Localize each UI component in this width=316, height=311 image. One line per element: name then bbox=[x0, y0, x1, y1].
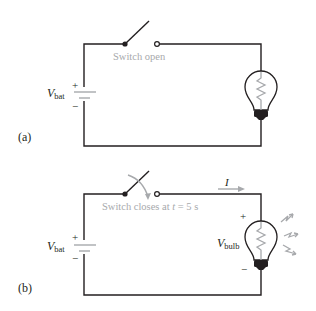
panel-b: Switch closes at t = 5 s I + − Vbat bbox=[18, 171, 298, 295]
switch-open-a bbox=[122, 21, 159, 47]
switch-closes-prefix: Switch closes at bbox=[102, 201, 172, 212]
current-arrow-icon bbox=[218, 186, 245, 192]
bulb-minus: − bbox=[241, 263, 247, 275]
light-ray-icons bbox=[281, 214, 298, 255]
switch-closes-suffix: = 5 s bbox=[175, 201, 198, 212]
panel-a: Switch open + − Vbat (a) bbox=[18, 21, 277, 146]
switch-motion-arrow-icon bbox=[145, 193, 151, 200]
light-bulb-icon bbox=[245, 71, 277, 120]
circuit-diagram: Switch open + − Vbat (a) bbox=[0, 0, 316, 311]
panel-label-b: (b) bbox=[18, 281, 32, 295]
battery-minus-a: − bbox=[72, 100, 78, 112]
panel-label-a: (a) bbox=[18, 130, 31, 144]
battery-minus-b: − bbox=[72, 252, 78, 264]
bulb-plus: + bbox=[240, 210, 246, 222]
lit-bulb-icon bbox=[245, 221, 277, 270]
switch-open-label: Switch open bbox=[113, 51, 166, 62]
vbat-label-b: Vbat bbox=[47, 239, 65, 254]
battery-plus-b: + bbox=[72, 231, 78, 243]
current-label: I bbox=[224, 176, 230, 188]
vbat-sub-a: bat bbox=[54, 91, 65, 101]
vbulb-sub: bulb bbox=[224, 241, 239, 251]
circuit-wires-a bbox=[84, 44, 261, 146]
battery-plus-a: + bbox=[72, 79, 78, 91]
vbat-label-a: Vbat bbox=[47, 86, 65, 101]
switch-closing-b bbox=[122, 171, 159, 200]
vbulb-label: Vbulb bbox=[217, 236, 239, 251]
switch-closes-label: Switch closes at t = 5 s bbox=[102, 201, 198, 212]
vbat-sub-b: bat bbox=[54, 244, 65, 254]
